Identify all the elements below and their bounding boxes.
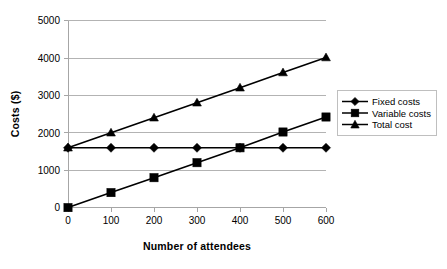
series-fixed-costs: [64, 143, 331, 152]
x-tick-labels: 0 100 200 300 400 500 600: [65, 215, 335, 226]
legend-label-total-cost: Total cost: [372, 119, 412, 130]
legend-marker-square-icon: [351, 109, 359, 117]
legend-label-variable-costs: Variable costs: [372, 108, 431, 119]
x-axis-ticks: [68, 208, 326, 212]
marker-variable-costs-600: [322, 113, 330, 121]
y-tick-label-3000: 3000: [38, 90, 61, 101]
y-tick-label-2000: 2000: [38, 128, 61, 139]
marker-fixed-costs-600: [322, 143, 331, 152]
marker-fixed-costs-500: [279, 143, 288, 152]
marker-variable-costs-400: [236, 144, 244, 152]
x-axis-title: Number of attendees: [143, 240, 251, 252]
y-axis-title: Costs ($): [9, 91, 21, 138]
marker-fixed-costs-200: [150, 143, 159, 152]
x-tick-label-400: 400: [232, 215, 249, 226]
x-tick-label-500: 500: [275, 215, 292, 226]
marker-total-cost-600: [322, 53, 331, 61]
y-tick-label-5000: 5000: [38, 15, 61, 26]
y-axis-ticks: [64, 21, 68, 208]
series-variable-costs: [64, 113, 330, 212]
y-tick-labels: 5000 4000 3000 2000 1000 0: [38, 15, 61, 213]
marker-variable-costs-100: [107, 189, 115, 197]
marker-variable-costs-500: [279, 128, 287, 136]
legend-item-variable-costs[interactable]: Variable costs: [342, 108, 431, 119]
y-tick-label-4000: 4000: [38, 53, 61, 64]
x-tick-label-0: 0: [65, 215, 71, 226]
marker-variable-costs-0: [64, 204, 72, 212]
y-tick-label-1000: 1000: [38, 165, 61, 176]
marker-variable-costs-200: [150, 174, 158, 182]
marker-variable-costs-300: [193, 159, 201, 167]
x-tick-label-600: 600: [318, 215, 335, 226]
x-tick-label-200: 200: [146, 215, 163, 226]
cost-line-chart: 5000 4000 3000 2000 1000 0 0 100 200 300…: [0, 0, 447, 269]
x-tick-label-300: 300: [189, 215, 206, 226]
chart-canvas: 5000 4000 3000 2000 1000 0 0 100 200 300…: [0, 0, 447, 269]
marker-fixed-costs-100: [107, 143, 116, 152]
legend-label-fixed-costs: Fixed costs: [372, 96, 420, 107]
marker-fixed-costs-300: [193, 143, 202, 152]
series-total-cost: [64, 53, 331, 151]
chart-legend: Fixed costs Variable costs Total cost: [338, 91, 437, 136]
x-tick-label-100: 100: [103, 215, 120, 226]
y-tick-label-0: 0: [54, 202, 60, 213]
